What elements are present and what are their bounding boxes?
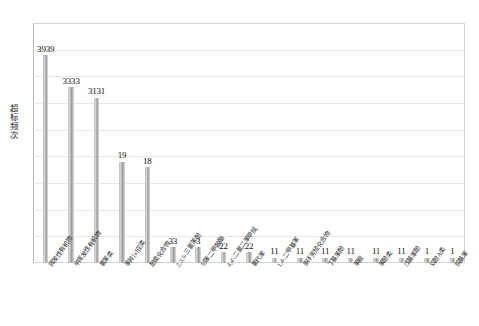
bar-value-label: 1: [425, 246, 429, 256]
bar-slot[interactable]: 3: [185, 23, 210, 263]
bar-chart: 超标频次 051015202530354045 3939333331311918…: [0, 0, 479, 326]
bar-value-label: 11: [270, 246, 278, 256]
bar-slot[interactable]: 33: [160, 23, 185, 263]
bar-slot[interactable]: 11: [338, 23, 363, 263]
bar-value-label: 11: [372, 246, 380, 256]
bar-slot[interactable]: 1: [414, 23, 439, 263]
bar-slot[interactable]: 19: [109, 23, 134, 263]
bar-slot[interactable]: 18: [135, 23, 160, 263]
bar[interactable]: [145, 167, 151, 263]
bars: 3939333331311918333222211111111111111: [33, 23, 465, 263]
bar-value-label: 11: [347, 246, 355, 256]
bar-slot[interactable]: 11: [262, 23, 287, 263]
bar-slot[interactable]: 11: [363, 23, 388, 263]
bar-slot[interactable]: 3939: [33, 23, 58, 263]
bar-slot[interactable]: 11: [287, 23, 312, 263]
bar[interactable]: [43, 55, 49, 263]
x-axis-tick-labels: 挥发性有机物半挥发性有机物氯苯类苯并[a]芘类酚类化合物2,3,5-三氯苯酚邻苯…: [33, 264, 465, 326]
bar-value-label: 19: [118, 150, 127, 160]
bar-slot[interactable]: 3131: [84, 23, 109, 263]
bar-slot[interactable]: 1: [440, 23, 465, 263]
bar-slot[interactable]: 22: [211, 23, 236, 263]
bar[interactable]: [119, 162, 125, 263]
bar-value-label: 11: [321, 246, 329, 256]
bar-value-label: 3939: [37, 44, 54, 54]
bar-value-label: 11: [296, 246, 304, 256]
bar-slot[interactable]: 22: [236, 23, 261, 263]
y-axis-title: 超标频次: [2, 104, 17, 140]
plot-area: 051015202530354045 393933333131191833322…: [33, 23, 465, 263]
bar-value-label: 18: [143, 156, 152, 166]
bar-value-label: 1: [450, 246, 454, 256]
bar-value-label: 3333: [63, 76, 80, 86]
bar[interactable]: [170, 247, 176, 263]
bar-slot[interactable]: 11: [389, 23, 414, 263]
bar-slot[interactable]: 3333: [58, 23, 83, 263]
bar-value-label: 11: [397, 246, 405, 256]
bar-value-label: 3131: [88, 86, 105, 96]
bar-slot[interactable]: 11: [313, 23, 338, 263]
